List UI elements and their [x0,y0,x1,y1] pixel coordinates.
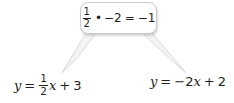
figure-canvas: 1 2 • −2 = −1 y = 1 2 x + 3 y = −2 x + 2 [0,0,234,103]
equation-right-plus: + [204,75,215,88]
equation-left-variable: x [49,79,56,92]
callout-expression: 1 2 • −2 = −1 [82,7,156,30]
equation-left: y = 1 2 x + 3 [14,73,81,97]
callout-fraction-one-half: 1 2 [83,7,91,30]
equation-left-fraction-one-half: 1 2 [39,73,48,97]
fraction-denominator: 2 [39,86,48,97]
fraction-numerator: 1 [83,7,91,18]
equation-left-plus: + [59,79,70,92]
equation-right-constant: 2 [218,75,226,88]
callout-equals: = [125,12,135,24]
fraction-numerator: 1 [39,73,48,84]
equation-left-equals: = [24,79,35,92]
equation-left-y: y [14,79,21,92]
callout-result: −1 [138,12,156,24]
right-tail-pointer [142,33,186,73]
equation-left-constant: 3 [73,79,81,92]
equation-right-y: y [150,75,157,88]
callout-box: 1 2 • −2 = −1 [80,2,157,34]
equation-right: y = −2 x + 2 [150,75,226,88]
callout-factor: −2 [104,12,122,24]
equation-right-coefficient: −2 [174,75,193,88]
left-tail-pointer [62,33,96,73]
fraction-denominator: 2 [83,19,91,30]
multiplication-dot: • [95,12,102,24]
equation-right-variable: x [193,75,200,88]
equation-right-equals: = [160,75,171,88]
